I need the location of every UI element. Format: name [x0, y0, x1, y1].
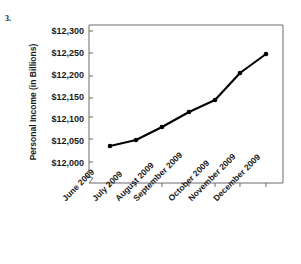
x-axis-tick-labels: June 2009 July 2009 August 2009 Septembe… [0, 0, 301, 264]
chart-figure: 3. Personal Income (in Billions) $12,300… [0, 0, 301, 264]
